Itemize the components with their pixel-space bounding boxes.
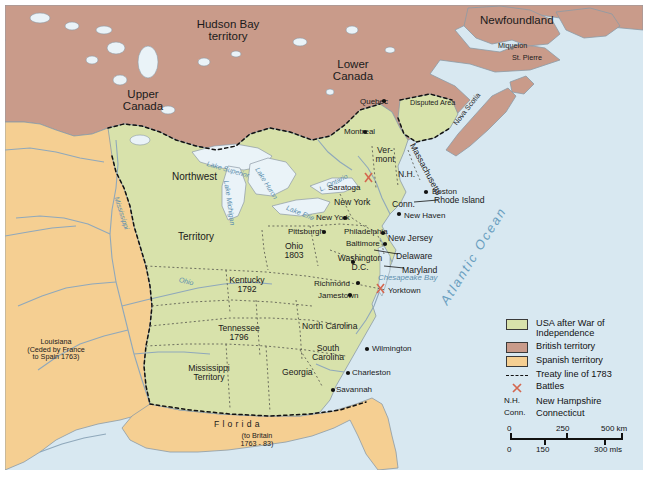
legend-label-usa: USA after War ofIndependence [536,318,605,339]
legend-row-treaty: Treaty line of 1783 [504,369,644,379]
legend-row-battles: Battles [504,381,644,394]
legend-abbr-nh: N.H. [504,396,530,405]
scale-km-right: 500 km [601,424,627,433]
scale-tick-mi-end [604,438,606,445]
map-legend: USA after War ofIndependence British ter… [504,318,644,420]
legend-label-nh: New Hampshire [536,396,601,406]
scale-tick-mid [566,433,568,440]
legend-swatch-usa [504,318,530,330]
legend-row-british: British territory [504,341,644,353]
legend-row-usa: USA after War ofIndependence [504,318,644,339]
legend-swatch-spanish [504,355,530,367]
legend-label-spanish: Spanish territory [536,355,603,365]
map-figure: Hudson Bayterritory LowerCanada UpperCan… [0,0,648,479]
legend-label-conn: Connecticut [536,408,585,418]
scale-km-mid: 250 [556,424,569,433]
legend-dash-icon [504,369,530,376]
scale-km-left: 0 [507,424,511,433]
legend-swatch-british [504,341,530,353]
legend-row-conn: Conn. Connecticut [504,408,644,418]
legend-label-british: British territory [536,341,595,351]
legend-abbr-conn: Conn. [504,408,530,417]
legend-label-treaty: Treaty line of 1783 [536,369,612,379]
scale-mi-right: 300 mls [594,445,622,454]
legend-row-nh: N.H. New Hampshire [504,396,644,406]
scale-tick-0 [510,433,512,440]
scale-mi-mid: 150 [536,445,549,454]
legend-row-spanish: Spanish territory [504,355,644,367]
battle-icon [504,381,530,394]
scale-mi-left: 0 [507,445,511,454]
scale-tick-mi-mid [544,438,546,445]
scale-tick-end [621,433,623,440]
legend-label-battles: Battles [536,381,564,391]
